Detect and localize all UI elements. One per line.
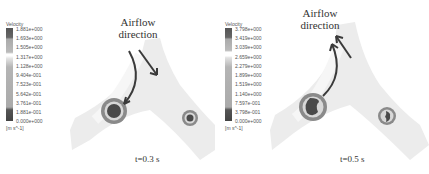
- time-label: t=0.5 s: [340, 154, 365, 164]
- panel-t05: Velocity 3.798e+000 3.419e+000 3.039e+00…: [215, 0, 429, 174]
- time-label: t=0.3 s: [135, 154, 160, 164]
- airflow-annotation: Airflow direction: [108, 16, 168, 40]
- airflow-annotation: Airflow direction: [290, 7, 350, 31]
- panel-t03: Velocity 1.881e+000 1.693e+000 1.505e+00…: [0, 0, 215, 174]
